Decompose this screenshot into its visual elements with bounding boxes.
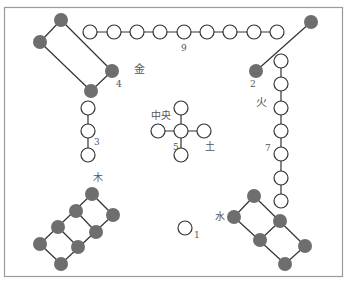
label-metal: 金 [134,62,145,76]
wood-3-nodes [81,101,95,162]
water-1-node [178,221,192,235]
water-6-nodes [227,189,312,271]
diagram-canvas: 金 4 9 2 火 7 3 木 中央 5 土 1 水 [0,0,347,283]
water-6-lines [234,196,305,264]
top-9-nodes [83,25,284,39]
label-fire: 火 [256,96,267,109]
label-n9: 9 [181,43,187,53]
label-n2: 2 [250,79,256,89]
metal-4-group [40,20,112,91]
label-n5: 5 [173,142,179,152]
label-n7: 7 [265,143,271,153]
fire-7-nodes [274,54,288,208]
label-wood: 木 [93,172,103,183]
label-earth: 土 [205,140,215,152]
label-center: 中央 [151,109,171,121]
label-n3: 3 [94,137,100,147]
label-n1: 1 [194,230,200,240]
metal-4-nodes [33,13,119,98]
wood-8-nodes [33,187,120,271]
label-n4: 4 [116,79,122,89]
label-water: 水 [215,211,225,222]
